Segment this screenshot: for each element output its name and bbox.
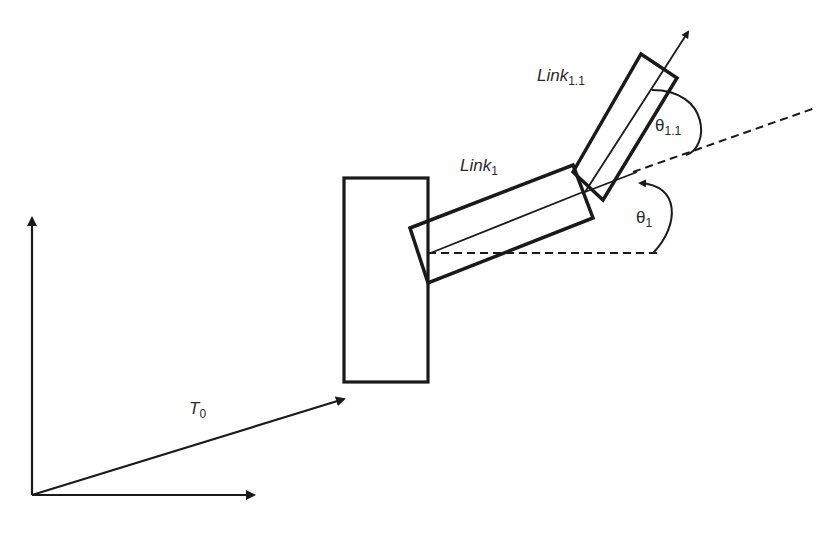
- link-1-label: Link1: [460, 156, 498, 178]
- link-1.1-label: Link1.1: [537, 66, 585, 88]
- theta-1.1-label: θ1.1: [655, 116, 681, 138]
- theta-1-label: θ1: [636, 208, 652, 230]
- t0-label: T0: [189, 399, 206, 421]
- link-1-axis: [428, 192, 583, 254]
- link-1.1-axis-arrow: [585, 32, 688, 192]
- t0-vector-arrow: [32, 399, 344, 495]
- world-frame-axes: [32, 218, 344, 495]
- kinematic-diagram: [0, 0, 835, 543]
- base-block: [344, 178, 428, 382]
- link-1: [410, 165, 593, 283]
